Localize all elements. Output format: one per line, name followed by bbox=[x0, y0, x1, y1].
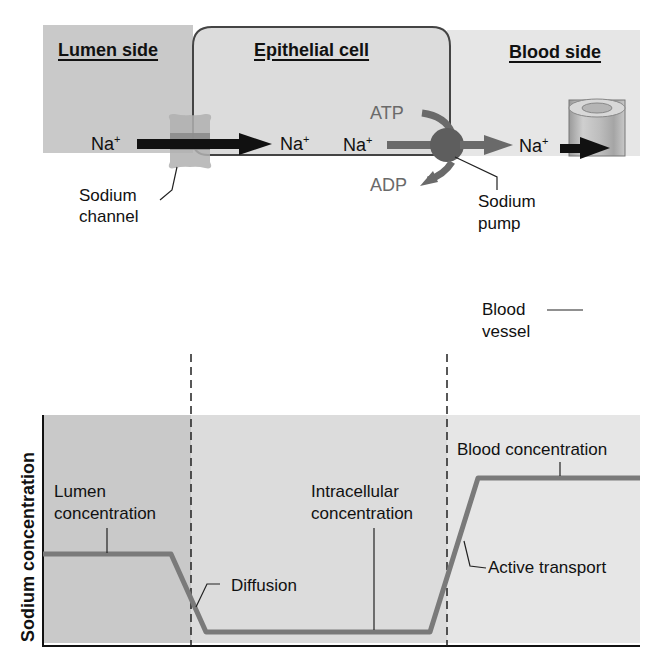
cell-na-ion-left: Na+ bbox=[280, 134, 309, 154]
sodium-channel-label-2: channel bbox=[79, 207, 139, 227]
epithelial-cell-header: Epithelial cell bbox=[254, 40, 369, 61]
cell-region-chart bbox=[191, 415, 447, 643]
sodium-pump-label-2: pump bbox=[478, 214, 521, 234]
lumen-side-header: Lumen side bbox=[58, 40, 158, 61]
y-axis-label: Sodium concentration bbox=[18, 452, 39, 642]
cell-na-ion-right: Na+ bbox=[343, 135, 372, 155]
intracellular-label-1: Intracellular bbox=[311, 482, 399, 502]
blood-vessel-label-2: vessel bbox=[482, 322, 530, 342]
blood-side-header: Blood side bbox=[509, 42, 601, 63]
active-transport-label: Active transport bbox=[488, 558, 606, 578]
lumen-conc-label-1: Lumen bbox=[54, 482, 106, 502]
intracellular-label-2: concentration bbox=[311, 504, 413, 524]
diffusion-label: Diffusion bbox=[231, 576, 297, 596]
atp-label: ATP bbox=[370, 103, 404, 123]
sodium-channel-label-1: Sodium bbox=[79, 186, 137, 206]
lumen-na-ion: Na+ bbox=[91, 134, 120, 154]
sodium-channel-leader-line bbox=[160, 167, 177, 200]
blood-conc-label: Blood concentration bbox=[457, 440, 607, 460]
blood-na-ion: Na+ bbox=[519, 136, 548, 156]
sodium-pump-leader-line bbox=[455, 157, 497, 190]
blood-vessel-label-1: Blood bbox=[482, 300, 525, 320]
sodium-pump-label-1: Sodium bbox=[478, 192, 536, 212]
lumen-conc-label-2: concentration bbox=[54, 504, 156, 524]
adp-label: ADP bbox=[370, 175, 407, 195]
lumen-region-chart bbox=[43, 415, 191, 643]
